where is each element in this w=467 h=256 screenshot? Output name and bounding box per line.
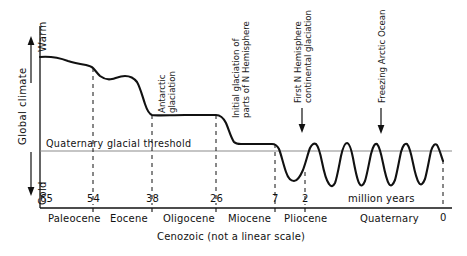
first-nh-glaciation-arrow-icon — [299, 108, 306, 133]
epoch-label-oligocene: Oligocene — [163, 213, 215, 224]
annotation-antarctic-glaciation: Antarctic glaciation — [158, 71, 177, 113]
x-tick-label-0: 0 — [440, 212, 447, 223]
y-axis-title: Global climate — [17, 67, 28, 145]
x-tick-label-2: 2 — [302, 193, 309, 204]
quaternary-glacial-threshold-label: Quaternary glacial threshold — [46, 138, 191, 149]
annotation-line: glaciation — [168, 71, 178, 113]
warm-arrow-icon — [28, 36, 35, 83]
x-axis-caption: Cenozoic (not a linear scale) — [157, 231, 305, 242]
annotation-freezing-arctic-ocean: Freezing Arctic Ocean — [378, 10, 388, 103]
annotation-line: continental glaciation — [304, 10, 314, 103]
x-tick-label-7: 7 — [272, 193, 279, 204]
freezing-arctic-ocean-arrow-icon — [378, 108, 385, 134]
x-tick-label-54: 54 — [87, 193, 100, 204]
epoch-label-miocene: Miocene — [228, 213, 271, 224]
cold-arrow-icon — [28, 152, 35, 196]
x-tick-label-65: 65 — [40, 193, 53, 204]
annotation-initial-glaciation-n-hemisphere: Initial glaciation of parts of N Hemisph… — [232, 21, 251, 118]
climate-curve-figure: Global climate Warm Cold Quaternary glac… — [0, 0, 467, 256]
annotation-line: parts of N Hemisphere — [242, 21, 252, 118]
x-tick-label-38: 38 — [146, 193, 159, 204]
annotation-line: Freezing Arctic Ocean — [378, 10, 388, 103]
y-axis-warm-label: Warm — [37, 21, 48, 52]
epoch-label-quaternary: Quaternary — [360, 213, 419, 224]
x-axis-unit-label: million years — [348, 193, 415, 204]
annotation-first-nh-continental-glaciation: First N Hemisphere continental glaciatio… — [294, 10, 313, 103]
x-tick-label-26: 26 — [210, 193, 223, 204]
epoch-label-eocene: Eocene — [110, 213, 148, 224]
epoch-label-paleocene: Paleocene — [48, 213, 101, 224]
epoch-label-pliocene: Pliocene — [284, 213, 327, 224]
